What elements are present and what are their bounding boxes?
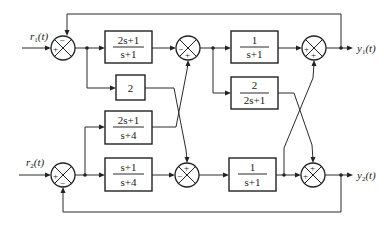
label-y2: y2(t) xyxy=(356,169,376,183)
block-g7: 1 s+1 xyxy=(229,158,276,191)
svg-text:+: + xyxy=(184,163,189,173)
svg-text:s+1: s+1 xyxy=(121,48,137,60)
svg-text:2s+1: 2s+1 xyxy=(118,114,139,126)
block-g3: 2s+1 s+4 xyxy=(105,111,152,144)
svg-text:−: − xyxy=(60,178,65,188)
summing-junction-s1: − + xyxy=(51,35,75,60)
input-r2: r2(t) xyxy=(19,156,51,178)
summing-junction-s2: − + xyxy=(176,36,200,60)
label-r1: r1(t) xyxy=(30,30,49,44)
block-g5: 1 s+1 xyxy=(231,31,278,63)
wire-g7-to-s3 xyxy=(284,63,314,175)
svg-text:2: 2 xyxy=(128,82,134,94)
svg-text:2: 2 xyxy=(252,79,258,91)
svg-text:+: + xyxy=(53,44,58,54)
svg-text:2s+1: 2s+1 xyxy=(118,34,139,46)
svg-text:−: − xyxy=(60,35,65,45)
summing-junction-s5: + − xyxy=(175,163,199,187)
svg-text:s+4: s+4 xyxy=(121,129,137,141)
svg-text:1: 1 xyxy=(250,161,256,173)
summing-junction-s4: + − xyxy=(51,163,75,188)
svg-text:+: + xyxy=(304,44,309,54)
svg-text:s+1: s+1 xyxy=(247,48,263,60)
input-r1: r1(t) xyxy=(22,30,51,51)
label-r2: r2(t) xyxy=(26,156,45,170)
block-g6: 2 2s+1 xyxy=(231,77,278,109)
svg-text:−: − xyxy=(177,171,182,181)
svg-text:−: − xyxy=(178,44,183,54)
svg-text:1: 1 xyxy=(252,34,258,46)
wire-g3-to-s2 xyxy=(152,63,188,127)
block-g4: s+1 s+4 xyxy=(105,158,152,191)
svg-text:2s+1: 2s+1 xyxy=(244,94,265,106)
label-y1: y1(t) xyxy=(356,42,376,56)
summing-junction-s3: + + xyxy=(302,36,326,60)
block-diagram: r1(t) − + 2s+1 s+1 − + 1 s+1 xyxy=(0,0,391,226)
svg-text:+: + xyxy=(185,50,190,60)
svg-text:+: + xyxy=(303,171,308,181)
svg-text:s+1: s+1 xyxy=(121,161,137,173)
svg-text:+: + xyxy=(311,50,316,60)
wire-g6-to-s6 xyxy=(278,93,313,160)
summing-junction-s6: + + xyxy=(301,163,325,187)
block-g1: 2s+1 s+1 xyxy=(105,31,152,63)
svg-text:s+4: s+4 xyxy=(121,176,137,188)
block-k: 2 xyxy=(116,75,145,100)
svg-text:s+1: s+1 xyxy=(245,176,261,188)
svg-text:+: + xyxy=(53,171,58,181)
svg-text:+: + xyxy=(310,163,315,173)
